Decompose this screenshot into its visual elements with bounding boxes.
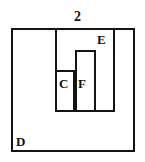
- region-label-c: C: [59, 77, 68, 90]
- figure-number-label: 2: [74, 10, 81, 24]
- region-label-e: E: [97, 33, 106, 46]
- region-label-f: F: [78, 77, 86, 90]
- geometry-figure: 2 E C F D: [0, 0, 145, 162]
- region-label-d: D: [16, 135, 25, 148]
